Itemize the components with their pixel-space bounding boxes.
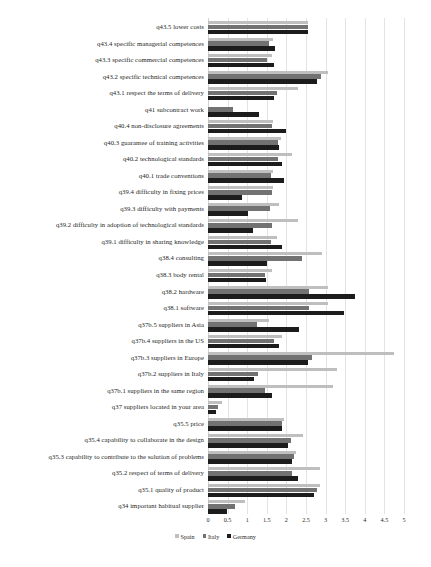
bar-italy [208,157,278,162]
bar-italy [208,339,274,344]
x-tick-label: 1 [246,516,249,523]
bar-spain [208,484,320,487]
bar-spain [208,21,308,24]
bar-spain [208,54,272,57]
legend-item-spain[interactable]: Spain [175,532,195,540]
bar-spain [208,252,322,255]
bar-italy [208,91,277,96]
bar-italy [208,322,257,327]
x-tick-label: 2.5 [302,516,310,523]
bar-germany [208,476,298,481]
bar-italy [208,124,272,129]
bar-italy [208,438,291,443]
legend-label: Spain [181,533,195,540]
legend-item-italy[interactable]: Italy [203,532,220,540]
bar-italy [208,206,270,211]
bar-italy [208,58,267,63]
x-axis: 00.511.522.533.544.55 [208,516,404,528]
chart-plot-area: q43.5 lower costsq43.4 specific manageri… [0,18,431,514]
bar-spain [208,401,222,404]
bar-italy [208,240,271,245]
bar-italy [208,388,265,393]
bar-spain [208,186,273,189]
bar-spain [208,170,273,173]
bar-italy [208,273,265,278]
x-tick-label: 0 [206,516,209,523]
bar-germany [208,162,282,167]
bar-germany [208,509,227,514]
bar-italy [208,454,294,459]
bar-italy [208,405,218,410]
bar-spain [208,500,245,503]
bar-germany [208,327,299,332]
bar-italy [208,372,258,377]
bar-germany [208,30,308,35]
bar-spain [208,286,328,289]
bar-germany [208,211,248,216]
bar-italy [208,488,317,493]
bar-germany [208,129,286,134]
bar-spain [208,352,394,355]
chart-row: q34 important habitual supplier [0,497,431,515]
bar-germany [208,493,314,498]
legend-swatch-icon [175,534,179,538]
chart-legend: SpainItalyGermany [0,532,431,540]
bar-italy [208,74,321,79]
bar-germany [208,261,267,266]
bar-germany [208,178,284,183]
x-tick-label: 3 [324,516,327,523]
bar-italy [208,173,271,178]
bar-spain [208,153,292,156]
bar-germany [208,311,344,316]
bar-spain [208,38,273,41]
bar-italy [208,107,233,112]
x-tick-label: 4 [363,516,366,523]
bar-spain [208,71,328,74]
bar-germany [208,377,254,382]
bar-spain [208,203,279,206]
bar-germany [208,112,259,117]
category-label: q34 important habitual supplier [4,497,204,515]
bar-spain [208,137,281,140]
bar-italy [208,190,272,195]
bar-spain [208,236,277,239]
legend-item-germany[interactable]: Germany [227,532,255,540]
bar-spain [208,451,296,454]
x-tick-label: 5 [402,516,405,523]
bar-germany [208,195,242,200]
bar-italy [208,223,272,228]
bar-germany [208,245,282,250]
bar-spain [208,219,298,222]
bar-germany [208,96,274,101]
x-tick-label: 0.5 [224,516,232,523]
bar-germany [208,79,317,84]
bar-germany [208,63,274,68]
legend-label: Germany [233,533,256,540]
bar-spain [208,467,320,470]
bar-spain [208,302,328,305]
x-tick-label: 3.5 [341,516,349,523]
bar-italy [208,504,235,509]
legend-label: Italy [208,533,219,540]
x-tick-label: 2 [285,516,288,523]
bar-germany [208,393,272,398]
bar-group [208,497,404,515]
bar-italy [208,355,312,360]
bar-spain [208,368,337,371]
bar-spain [208,120,273,123]
bar-spain [208,418,284,421]
bar-italy [208,140,278,145]
bar-italy [208,289,309,294]
bar-spain [208,87,298,90]
bar-italy [208,306,309,311]
bar-germany [208,459,292,464]
bar-italy [208,25,308,30]
bar-spain [208,269,272,272]
bar-germany [208,46,275,51]
bar-italy [208,256,302,261]
legend-swatch-icon [227,534,231,538]
legend-swatch-icon [203,534,207,538]
bar-spain [208,434,303,437]
bar-italy [208,41,269,46]
x-tick-label: 4.5 [381,516,389,523]
